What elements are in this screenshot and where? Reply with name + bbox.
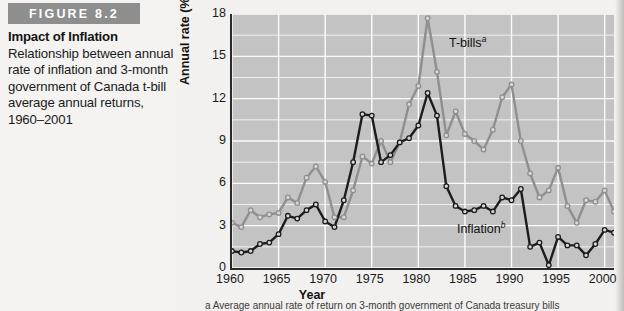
chart-svg — [232, 14, 614, 268]
y-tick-label: 9 — [192, 133, 226, 147]
y-tick-label: 3 — [192, 218, 226, 232]
figure-footnote: a Average annual rate of return on 3-mon… — [205, 300, 624, 311]
x-tick-label: 1975 — [347, 272, 393, 286]
figure-description: Relationship between annual rate of infl… — [8, 46, 174, 128]
figure-number-badge: FIGURE 8.2 — [8, 3, 140, 24]
series-label-t-bills: T-billsa — [449, 34, 486, 50]
x-tick-label: 1960 — [207, 272, 253, 286]
x-tick-label: 1965 — [254, 272, 300, 286]
x-tick-label: 1990 — [487, 272, 533, 286]
series-label-text: Inflation — [457, 222, 501, 236]
data-series — [232, 16, 614, 268]
y-tick-label: 6 — [192, 175, 226, 189]
series-label-inflation: Inflationb — [457, 220, 506, 236]
figure-root: FIGURE 8.2 Impact of Inflation Relations… — [0, 0, 624, 311]
x-tick-label: 1985 — [440, 272, 486, 286]
figure-number-label: FIGURE 8.2 — [29, 7, 119, 21]
plot-area — [230, 14, 614, 270]
y-axis-ticks: 0369121518 — [188, 0, 226, 311]
x-tick-label: 1970 — [300, 272, 346, 286]
y-tick-label: 18 — [192, 6, 226, 20]
series-label-text: T-bills — [449, 36, 482, 50]
figure-title: Impact of Inflation — [8, 29, 173, 44]
caption-column: FIGURE 8.2 Impact of Inflation Relations… — [0, 0, 176, 311]
x-tick-label: 1995 — [533, 272, 579, 286]
x-tick-label: 1980 — [393, 272, 439, 286]
series-label-superscript: a — [482, 34, 487, 44]
series-label-superscript: b — [501, 220, 506, 230]
y-tick-label: 12 — [192, 91, 226, 105]
y-tick-label: 15 — [192, 48, 226, 62]
x-tick-label: 2000 — [580, 272, 624, 286]
